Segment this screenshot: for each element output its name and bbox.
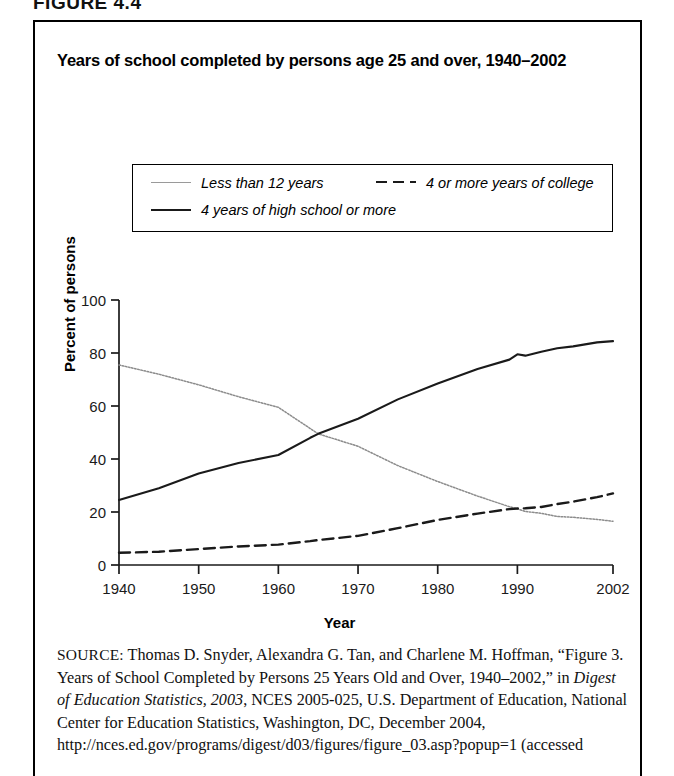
source-text-part-1: Thomas D. Snyder, Alexandra G. Tan, and … [57, 646, 623, 687]
line-chart-svg: 0204060801001940195019601970198019902002 [35, 237, 640, 637]
legend-swatch-solid-line [151, 204, 191, 216]
legend-label: Less than 12 years [201, 175, 324, 191]
y-tick-label: 40 [89, 451, 106, 468]
x-axis-label: Year [35, 614, 644, 631]
figure-number-label: FIGURE 4.4 [33, 0, 141, 14]
chart-title: Years of school completed by persons age… [57, 50, 617, 71]
data-series-line [119, 365, 613, 521]
source-note: SOURCE: Thomas D. Snyder, Alexandra G. T… [57, 644, 629, 757]
x-tick-label: 1940 [102, 580, 135, 597]
legend-label: 4 or more years of college [426, 175, 594, 191]
x-tick-label: 2002 [596, 580, 629, 597]
y-tick-label: 100 [81, 292, 106, 309]
legend-item-high-school: 4 years of high school or more [151, 202, 396, 218]
legend-item-college: 4 or more years of college [376, 175, 594, 191]
y-tick-label: 0 [98, 557, 106, 574]
y-tick-label: 80 [89, 345, 106, 362]
plot-area: 0204060801001940195019601970198019902002 [35, 237, 640, 637]
chart-legend: Less than 12 years 4 or more years of co… [132, 164, 613, 232]
data-series-line [119, 493, 613, 552]
legend-item-less-than-12-years: Less than 12 years [151, 175, 324, 191]
legend-swatch-dashed-line [376, 177, 416, 189]
figure-panel: Years of school completed by persons age… [33, 20, 642, 776]
y-tick-label: 20 [89, 504, 106, 521]
x-tick-label: 1980 [421, 580, 454, 597]
x-tick-label: 1950 [182, 580, 215, 597]
source-prefix: SOURCE: [57, 646, 124, 663]
x-tick-label: 1960 [262, 580, 295, 597]
y-tick-label: 60 [89, 398, 106, 415]
data-series-line [119, 341, 613, 500]
legend-label: 4 years of high school or more [201, 202, 396, 218]
x-tick-label: 1990 [501, 580, 534, 597]
x-tick-label: 1970 [341, 580, 374, 597]
legend-swatch-dotted-line [151, 177, 191, 189]
